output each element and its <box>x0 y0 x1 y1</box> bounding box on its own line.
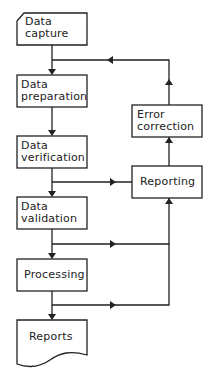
label-line: validation <box>21 213 77 225</box>
data-verification-label: Data verification <box>21 140 85 164</box>
arrow-down-icon <box>48 314 56 320</box>
data-preparation-label: Data preparation <box>21 79 87 103</box>
arrow-right-icon <box>110 301 116 309</box>
arrow-up-icon <box>165 198 173 204</box>
label-line: verification <box>21 152 85 164</box>
arrow-left-icon <box>107 56 113 64</box>
error-correction-label: Error correction <box>137 109 194 133</box>
reports-shape <box>17 320 87 366</box>
reports-label: Reports <box>29 331 73 343</box>
data-validation-label: Data validation <box>21 201 77 225</box>
arrow-up-icon <box>165 79 173 85</box>
arrow-down-icon <box>48 69 56 75</box>
arrow-right-icon <box>110 240 116 248</box>
processing-label: Processing <box>24 269 85 281</box>
flowchart-canvas <box>0 0 211 379</box>
arrow-down-icon <box>48 253 56 259</box>
arrow-up-icon <box>165 137 173 143</box>
reporting-label: Reporting <box>140 176 195 188</box>
arrow-right-icon <box>110 178 116 186</box>
arrow-down-icon <box>48 191 56 197</box>
label-line: capture <box>25 28 69 40</box>
arrow-down-icon <box>48 130 56 136</box>
label-line: correction <box>137 121 194 133</box>
label-line: preparation <box>21 91 87 103</box>
data-capture-label: Data capture <box>25 16 69 40</box>
